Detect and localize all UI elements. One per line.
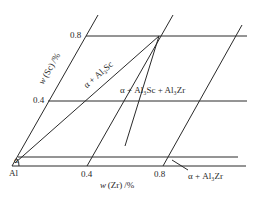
sc-tick-0.8: 0.8 xyxy=(70,31,81,40)
zr-tick-0.4: 0.4 xyxy=(81,170,92,179)
zr-tick-0.8: 0.8 xyxy=(154,170,165,179)
sc-tick-0.4: 0.4 xyxy=(33,96,44,105)
alpha-al3zr-leader xyxy=(172,160,188,170)
zr-0.8-gridline xyxy=(163,25,242,166)
zr-axis-var: w xyxy=(100,180,106,190)
zr-axis-label: w (Zr) /% xyxy=(100,181,134,190)
zr-axis-unit: /% xyxy=(124,180,134,190)
phase-diagram: α Al 0.8 0.4 w (Sc) /% 0.4 0.8 w (Zr) /%… xyxy=(0,0,260,198)
region-label-alpha-al3zr: α + Al₃Zr xyxy=(188,172,223,181)
al-corner-label: Al xyxy=(9,169,18,178)
sc-axis-line xyxy=(12,15,98,166)
zr-axis-element: (Zr) xyxy=(108,180,123,190)
alpha-phase-label: α xyxy=(14,157,18,165)
region-label-alpha-al3sc-al3zr: α + Al₃Sc + Al₃Zr xyxy=(120,86,185,95)
